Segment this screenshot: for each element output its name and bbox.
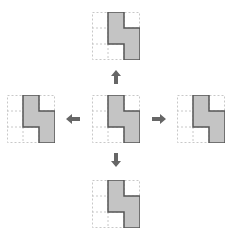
arrow-down-icon	[111, 153, 121, 167]
panel-bottom	[92, 180, 140, 228]
panel-left	[7, 95, 55, 143]
grid-shape-figure	[177, 95, 225, 143]
panel-right	[177, 95, 225, 143]
grid-shape-figure	[7, 95, 55, 143]
arrow-right-icon	[152, 114, 166, 124]
arrow-up-icon	[111, 70, 121, 84]
grid-shape-figure	[92, 95, 140, 143]
arrow-left-icon	[66, 114, 80, 124]
grid-shape-figure	[92, 180, 140, 228]
panel-center	[92, 95, 140, 143]
panel-top	[92, 12, 140, 60]
grid-shape-figure	[92, 12, 140, 60]
